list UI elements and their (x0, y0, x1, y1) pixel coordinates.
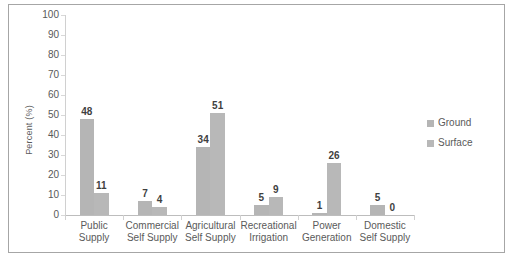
bar-value-label: 5 (375, 193, 381, 203)
bar-value-label: 11 (96, 181, 107, 191)
bar-value-label: 48 (81, 107, 92, 117)
y-axis-tick-label: 40 (48, 130, 59, 140)
bar-value-label: 1 (317, 201, 323, 211)
bar-value-label: 51 (212, 101, 223, 111)
x-axis-label-5: Domestic Self Supply (356, 220, 414, 244)
bar-ground-0[interactable]: 48 (80, 119, 95, 215)
bar-surface-4[interactable]: 26 (327, 163, 342, 215)
bar-ground-4[interactable]: 1 (312, 213, 327, 215)
chart-frame: Percent (%) 0102030405060708090100 48117… (8, 4, 505, 253)
bar-ground-1[interactable]: 7 (138, 201, 153, 215)
bar-ground-2[interactable]: 34 (196, 147, 211, 215)
legend-swatch-icon (427, 140, 434, 147)
x-axis-label-2: Agricultural Self Supply (181, 220, 239, 244)
bar-surface-0[interactable]: 11 (94, 193, 109, 215)
x-axis-label-3: Recreational Irrigation (240, 220, 298, 244)
legend-swatch-icon (427, 120, 434, 127)
y-axis-tick-mark (61, 155, 65, 156)
y-axis-tick-label: 30 (48, 150, 59, 160)
bar-surface-3[interactable]: 9 (269, 197, 284, 215)
y-axis-tick-mark (61, 195, 65, 196)
bar-surface-1[interactable]: 4 (152, 207, 167, 215)
bar-value-label: 34 (198, 135, 209, 145)
y-axis-tick-mark (61, 15, 65, 16)
legend-label: Ground (438, 118, 471, 128)
y-axis-tick-mark (61, 95, 65, 96)
bar-ground-3[interactable]: 5 (254, 205, 269, 215)
legend-item-ground[interactable]: Ground (427, 113, 472, 133)
y-axis-tick-mark (61, 135, 65, 136)
y-axis-tick-label: 60 (48, 90, 59, 100)
x-axis-label-1: Commercial Self Supply (123, 220, 181, 244)
bar-value-label: 5 (259, 193, 265, 203)
bar-surface-2[interactable]: 51 (210, 113, 225, 215)
y-axis-tick-label: 90 (48, 30, 59, 40)
bar-value-label: 26 (328, 151, 339, 161)
category-separator-tick (414, 215, 415, 220)
bar-value-label: 9 (273, 185, 279, 195)
bar-value-label: 0 (389, 203, 395, 213)
y-axis-tick-label: 70 (48, 70, 59, 80)
legend-item-surface[interactable]: Surface (427, 133, 472, 153)
bar-ground-5[interactable]: 5 (370, 205, 385, 215)
bar-value-label: 7 (142, 189, 148, 199)
y-axis-tick-label: 0 (53, 210, 59, 220)
plot-area: 0102030405060708090100 48117434515912650… (65, 15, 414, 215)
y-axis-tick-label: 50 (48, 110, 59, 120)
y-axis-tick-mark (61, 55, 65, 56)
y-axis-line (65, 15, 66, 215)
y-axis-tick-label: 10 (48, 190, 59, 200)
bar-value-label: 4 (157, 195, 163, 205)
legend-label: Surface (438, 138, 472, 148)
y-axis-tick-mark (61, 175, 65, 176)
chart-legend: GroundSurface (427, 113, 472, 153)
y-axis-tick-mark (61, 115, 65, 116)
y-axis-tick-label: 20 (48, 170, 59, 180)
x-axis-label-0: Public Supply (65, 220, 123, 244)
y-axis-tick-mark (61, 75, 65, 76)
x-axis-label-4: Power Generation (298, 220, 356, 244)
y-axis-tick-label: 100 (42, 10, 59, 20)
y-axis-tick-mark (61, 35, 65, 36)
y-axis-title: Percent (%) (24, 105, 34, 155)
y-axis-tick-label: 80 (48, 50, 59, 60)
